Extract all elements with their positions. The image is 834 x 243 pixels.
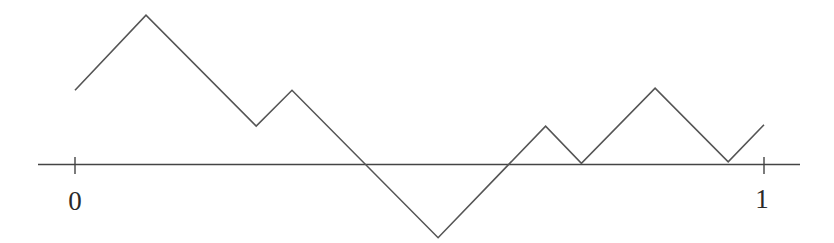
zigzag-diagram	[0, 0, 834, 243]
tick-label-1: 1	[755, 186, 769, 213]
tick-label-0: 0	[68, 188, 82, 215]
zigzag-path	[75, 15, 764, 238]
